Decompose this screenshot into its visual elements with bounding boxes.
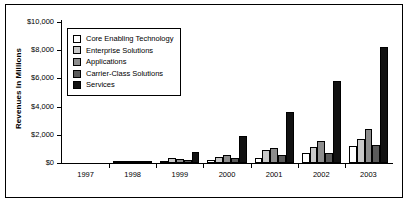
bar bbox=[176, 159, 184, 163]
x-axis-tick-label: 1997 bbox=[62, 170, 109, 179]
bar bbox=[270, 148, 278, 164]
bar bbox=[357, 139, 365, 163]
bar bbox=[223, 155, 231, 163]
legend-item-label: Core Enabling Technology bbox=[86, 35, 173, 43]
bar bbox=[239, 136, 247, 163]
y-axis-tick-label: $2,000 bbox=[31, 130, 54, 139]
legend-item: Carrier-Class Solutions bbox=[73, 68, 173, 80]
legend-swatch-icon bbox=[73, 70, 81, 78]
bar bbox=[349, 146, 357, 163]
x-axis-group-separator bbox=[156, 163, 157, 168]
bar bbox=[184, 160, 192, 163]
y-axis-tick-label: $10,000 bbox=[27, 17, 54, 26]
x-axis-group-separator bbox=[298, 163, 299, 168]
x-axis-line bbox=[61, 163, 393, 164]
bar bbox=[192, 152, 200, 163]
legend-item-label: Services bbox=[86, 81, 115, 89]
bar bbox=[317, 141, 325, 163]
bar bbox=[121, 161, 129, 163]
legend-swatch-icon bbox=[73, 35, 81, 43]
x-axis-tick-label: 2001 bbox=[251, 170, 298, 179]
bar bbox=[333, 81, 341, 163]
x-axis-tick-label: 2000 bbox=[203, 170, 250, 179]
x-axis-group-separator bbox=[203, 163, 204, 168]
legend-swatch-icon bbox=[73, 58, 81, 66]
x-axis-tick-label: 2003 bbox=[345, 170, 392, 179]
bar bbox=[262, 150, 270, 163]
chart-figure: Revenues In Millions $0$2,000$4,000$6,00… bbox=[0, 0, 408, 203]
chart-legend: Core Enabling TechnologyEnterprise Solut… bbox=[67, 28, 181, 96]
y-axis-tick-label: $0 bbox=[46, 158, 54, 167]
bar bbox=[380, 47, 388, 163]
bar bbox=[310, 147, 318, 163]
bar bbox=[168, 158, 176, 163]
legend-item-label: Enterprise Solutions bbox=[86, 47, 153, 55]
legend-item-label: Applications bbox=[86, 58, 126, 66]
bar bbox=[325, 153, 333, 163]
x-axis-group-separator bbox=[251, 163, 252, 168]
y-axis-tick-mark bbox=[57, 163, 62, 164]
bar bbox=[365, 129, 373, 163]
x-axis-tick-label: 1999 bbox=[156, 170, 203, 179]
bar bbox=[372, 145, 380, 163]
bar bbox=[207, 160, 215, 163]
bar bbox=[302, 153, 310, 163]
bar bbox=[215, 157, 223, 163]
legend-item: Applications bbox=[73, 56, 173, 68]
legend-item: Enterprise Solutions bbox=[73, 45, 173, 57]
y-axis-tick-label: $6,000 bbox=[31, 73, 54, 82]
bar bbox=[129, 161, 137, 163]
bar bbox=[113, 161, 121, 163]
bar bbox=[144, 161, 152, 163]
legend-item: Core Enabling Technology bbox=[73, 33, 173, 45]
legend-item-label: Carrier-Class Solutions bbox=[86, 70, 163, 78]
x-axis-tick-label: 1998 bbox=[109, 170, 156, 179]
legend-swatch-icon bbox=[73, 46, 81, 54]
legend-swatch-icon bbox=[73, 81, 81, 89]
bar bbox=[278, 155, 286, 163]
y-axis-tick-label: $8,000 bbox=[31, 45, 54, 54]
bar bbox=[255, 158, 263, 163]
bar bbox=[137, 161, 145, 163]
y-axis-tick-label: $4,000 bbox=[31, 102, 54, 111]
x-axis-group-separator bbox=[109, 163, 110, 168]
bar bbox=[231, 158, 239, 163]
bar bbox=[286, 112, 294, 163]
legend-item: Services bbox=[73, 79, 173, 91]
x-axis-tick-label: 2002 bbox=[298, 170, 345, 179]
bar bbox=[160, 161, 168, 163]
y-axis-title: Revenues In Millions bbox=[14, 19, 23, 159]
x-axis-group-separator bbox=[345, 163, 346, 168]
